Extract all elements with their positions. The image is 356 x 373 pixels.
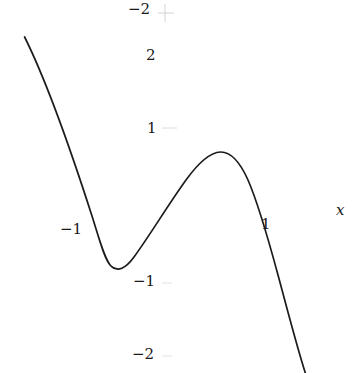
y-tick-label-2: 2 (146, 48, 156, 63)
plot-svg (0, 0, 356, 373)
x-axis-label: x (336, 203, 344, 218)
y-tick-label-1: 1 (147, 121, 157, 136)
y-tick-label-neg1: −1 (133, 274, 155, 289)
function-curve (25, 37, 306, 373)
x-tick-label-neg1: −1 (60, 222, 82, 237)
x-tick-label-1: 1 (261, 217, 271, 232)
axis-ticks (158, 4, 266, 356)
plot-canvas: −2 2 1 −1 −2 −1 1 x (0, 0, 356, 373)
y-tick-label-neg2: −2 (132, 347, 154, 362)
y-tick-label-neg2-top: −2 (128, 2, 150, 17)
